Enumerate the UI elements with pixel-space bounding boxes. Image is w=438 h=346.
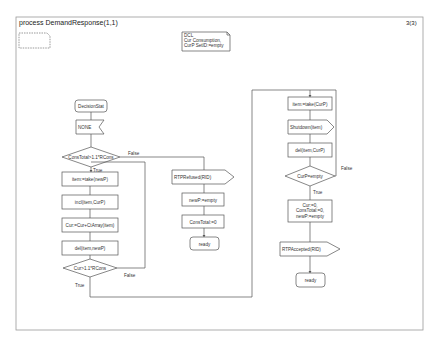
- declaration-line-3: CurP SetID:=empty: [184, 43, 224, 48]
- decision-constotal-label: ConsTotal>1.1*RCons: [68, 155, 114, 160]
- task-del-newp-label: del(item,newP): [75, 246, 106, 251]
- output-rtprefused-label: RTPRefused(RID): [174, 175, 212, 180]
- task-reset-line-2: ConsTotal:=0,: [296, 208, 324, 213]
- task-newp-empty-label: newP:=empty: [189, 198, 218, 203]
- task-take-curp-label: item:=take(CurP): [293, 102, 328, 107]
- task-reset-line-1: Cur:=0,: [302, 203, 317, 208]
- task-cur-update-label: Cur:=Cur+CtArray(item): [66, 223, 115, 228]
- decision-cur-true: True: [75, 283, 85, 288]
- task-del-curp-label: del(item,CurP): [295, 148, 325, 153]
- state-ready-accepted-label: ready: [305, 278, 317, 283]
- task-constotal-zero-label: ConsTotal:=0: [190, 220, 217, 225]
- decision-curp-empty-true: True: [313, 190, 323, 195]
- page-indicator: 3(3): [406, 20, 417, 26]
- input-none-label: NONE: [78, 125, 91, 130]
- decision-cur-false: False: [124, 273, 136, 278]
- task-reset-line-3: newP:=empty: [296, 214, 325, 219]
- process-title: process DemandResponse(1,1): [19, 19, 118, 27]
- state-decisionstat-label: DecisionStat: [78, 104, 105, 109]
- task-incl-item-label: incl(item,CurP): [75, 200, 106, 205]
- decision-curp-empty-label: CurP=empty: [297, 174, 323, 179]
- declaration-box: DCL Cur Consumption, CurP SetID:=empty: [182, 32, 230, 51]
- output-rtpaccepted-label: RTPAccepted(RID): [282, 247, 321, 252]
- task-take-newp-label: item:=take(newP): [72, 177, 108, 182]
- decision-curp-empty-false: False: [341, 166, 353, 171]
- decision-cur-label: Cur>1.1*RCons: [74, 266, 107, 271]
- decision-constotal-false: False: [128, 151, 140, 156]
- sdl-process-diagram: process DemandResponse(1,1) 3(3) DCL Cur…: [0, 0, 438, 346]
- comment-symbol: [19, 33, 50, 48]
- output-shutdown-label: Shutdown(item): [290, 125, 323, 130]
- state-ready-refused-label: ready: [199, 242, 211, 247]
